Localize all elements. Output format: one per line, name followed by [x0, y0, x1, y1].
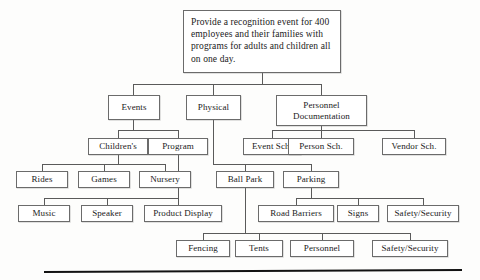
node-fencing[interactable]: Fencing [176, 240, 230, 257]
node-safety-security-ballpark[interactable]: Safety/Security [372, 240, 448, 257]
node-ball-park[interactable]: Ball Park [216, 171, 274, 188]
node-nursery[interactable]: Nursery [139, 171, 191, 188]
node-games[interactable]: Games [78, 171, 130, 188]
node-product-display[interactable]: Product Display [144, 205, 222, 222]
node-program[interactable]: Program [148, 138, 208, 155]
node-safety-security-parking[interactable]: Safety/Security [387, 205, 459, 222]
node-signs[interactable]: Signs [337, 205, 379, 222]
node-physical[interactable]: Physical [186, 95, 241, 120]
node-music[interactable]: Music [18, 205, 70, 222]
node-personnel[interactable]: Personnel [290, 240, 354, 257]
node-personnel-documentation[interactable]: Personnel Documentation [276, 95, 367, 126]
root-objective-box: Provide a recognition event for 400 empl… [183, 10, 341, 73]
node-parking[interactable]: Parking [283, 171, 339, 188]
node-vendor-sch[interactable]: Vendor Sch. [382, 138, 446, 155]
wbs-diagram-canvas: Provide a recognition event for 400 empl… [0, 0, 480, 280]
node-rides[interactable]: Rides [16, 171, 68, 188]
node-events[interactable]: Events [108, 95, 160, 120]
node-childrens[interactable]: Children's [88, 138, 148, 155]
node-speaker[interactable]: Speaker [81, 205, 133, 222]
node-person-sch[interactable]: Person Sch. [288, 138, 354, 155]
node-road-barriers[interactable]: Road Barriers [258, 205, 334, 222]
footer-rule [44, 269, 462, 273]
node-tents[interactable]: Tents [235, 240, 283, 257]
